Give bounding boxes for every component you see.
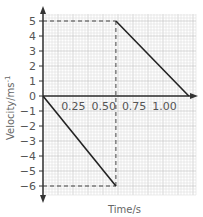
y-tick-label: −2 (20, 120, 36, 133)
y-tick-label: −6 (20, 180, 36, 193)
y-tick-label: −1 (20, 105, 36, 118)
y-axis-label: Velocity/ms-1 (4, 75, 16, 140)
y-tick-label: 1 (29, 75, 36, 88)
y-axis-label-superscript: -1 (4, 75, 12, 82)
y-tick-label: −3 (20, 135, 36, 148)
x-tick-label: 0.50 (92, 100, 117, 113)
y-tick-label: 2 (29, 60, 36, 73)
y-axis-label-text: Velocity/ms (5, 82, 16, 140)
x-axis-arrow (190, 93, 198, 99)
y-tick-label: 4 (29, 30, 36, 43)
y-tick-label: 5 (29, 15, 36, 28)
x-tick-label: 0.25 (61, 100, 86, 113)
y-tick-label: −5 (20, 165, 36, 178)
y-tick-labels: 543210−1−2−3−4−5−6 (20, 15, 43, 193)
x-tick-label: 1.00 (152, 100, 177, 113)
x-tick-label: 0.75 (122, 100, 147, 113)
y-tick-label: 3 (29, 45, 36, 58)
velocity-time-chart: 543210−1−2−3−4−5−6 0.250.500.751.00 Time… (0, 0, 203, 217)
y-axis-arrow-down (40, 195, 46, 203)
y-axis-arrow-up (40, 6, 46, 14)
y-tick-label: −4 (20, 150, 36, 163)
y-tick-label: 0 (29, 90, 36, 103)
x-axis-label: Time/s (107, 204, 141, 215)
